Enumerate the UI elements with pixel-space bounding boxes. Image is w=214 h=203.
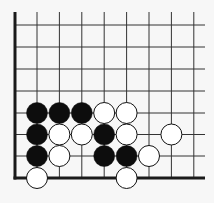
black-stone xyxy=(27,103,48,124)
white-stone xyxy=(71,124,92,145)
black-stone xyxy=(94,146,115,167)
white-stone xyxy=(116,103,137,124)
white-stone xyxy=(49,124,70,145)
white-stone xyxy=(27,168,48,189)
black-stone xyxy=(49,103,70,124)
black-stone xyxy=(71,103,92,124)
white-stone xyxy=(116,124,137,145)
black-stone xyxy=(116,146,137,167)
black-stone xyxy=(94,124,115,145)
white-stone xyxy=(49,146,70,167)
white-stone xyxy=(94,103,115,124)
black-stone xyxy=(27,124,48,145)
white-stone xyxy=(161,124,182,145)
black-stone xyxy=(27,146,48,167)
white-stone xyxy=(139,146,160,167)
white-stone xyxy=(116,168,137,189)
go-board xyxy=(0,0,214,203)
